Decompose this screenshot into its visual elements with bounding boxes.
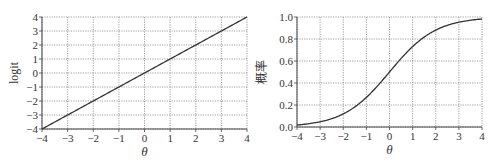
x-tick-label: 2 <box>193 132 199 144</box>
y-axis-label: logit <box>7 61 21 84</box>
x-tick-label: −3 <box>62 132 74 144</box>
y-tick-label: 0.4 <box>279 77 293 89</box>
x-axis-label: θ <box>141 144 148 159</box>
logit-chart: −4−3−2−101234−4−3−2−101234θlogit <box>7 11 250 159</box>
y-tick-label: 3 <box>33 25 39 37</box>
x-tick-label: 3 <box>219 132 225 144</box>
x-tick-label: 1 <box>167 132 173 144</box>
y-tick-label: 0.2 <box>279 99 293 111</box>
y-tick-label: −3 <box>26 109 38 121</box>
x-tick-label: 0 <box>142 132 148 144</box>
x-tick-label: 2 <box>433 130 439 142</box>
probability-chart: −4−3−2−1012340.00.20.40.60.81.0θ概率 <box>254 11 485 157</box>
y-tick-label: 2 <box>33 39 39 51</box>
y-tick-label: 4 <box>33 11 39 23</box>
chart-canvas: −4−3−2−101234−4−3−2−101234θlogit−4−3−2−1… <box>0 0 497 167</box>
y-tick-label: 0.8 <box>279 33 293 45</box>
x-tick-label: 3 <box>456 130 462 142</box>
x-tick-label: −2 <box>337 130 349 142</box>
y-tick-label: −1 <box>26 81 38 93</box>
x-tick-label: −1 <box>361 130 373 142</box>
y-tick-label: −4 <box>26 123 38 135</box>
y-tick-label: −2 <box>26 95 38 107</box>
x-tick-label: 4 <box>479 130 485 142</box>
x-axis-label: θ <box>386 142 393 157</box>
x-tick-label: −1 <box>113 132 125 144</box>
x-tick-label: 4 <box>244 132 250 144</box>
data-line <box>42 17 247 129</box>
x-tick-label: 0 <box>387 130 393 142</box>
y-tick-label: 1 <box>33 53 39 65</box>
x-tick-label: 1 <box>410 130 416 142</box>
x-tick-label: −3 <box>314 130 326 142</box>
x-tick-label: −2 <box>87 132 99 144</box>
y-tick-label: 0 <box>33 67 39 79</box>
y-tick-label: 0.6 <box>279 55 293 67</box>
y-tick-label: 0.0 <box>279 121 293 133</box>
y-axis-label: 概率 <box>254 60 269 84</box>
y-tick-label: 1.0 <box>279 11 293 23</box>
